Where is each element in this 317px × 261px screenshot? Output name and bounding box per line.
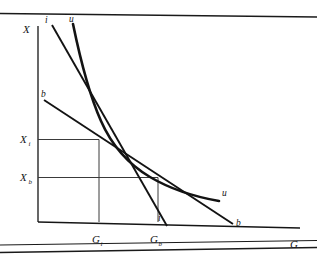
budget-line-b-label-top: b [41,89,46,99]
economics-diagram-svg: X G i u b u b i X i X b G i G [0,0,317,261]
indifference-curve-u-label-top: u [69,14,74,24]
x-tick-label-g-b-base: G [150,233,158,245]
x-tick-label-g-i-base: G [92,233,100,245]
x-tick-label-g-i-sub: i [101,240,103,248]
budget-line-i-label-top: i [45,15,48,25]
y-tick-label-x-b-sub: b [29,178,33,186]
y-tick-label-x-i-base: X [19,133,28,145]
x-axis-label: G [290,238,298,250]
x-tick-label-g-b-sub: b [159,240,163,248]
figure-page: X G i u b u b i X i X b G i G [0,0,317,261]
y-tick-label-x-b-base: X [19,171,28,183]
budget-line-b-label-right: b [236,218,241,228]
budget-line-i-label-bottom: i [158,213,161,223]
y-tick-label-x-i-sub: i [29,140,31,148]
indifference-curve-u-label-right: u [222,188,227,198]
y-axis-label: X [22,23,31,35]
